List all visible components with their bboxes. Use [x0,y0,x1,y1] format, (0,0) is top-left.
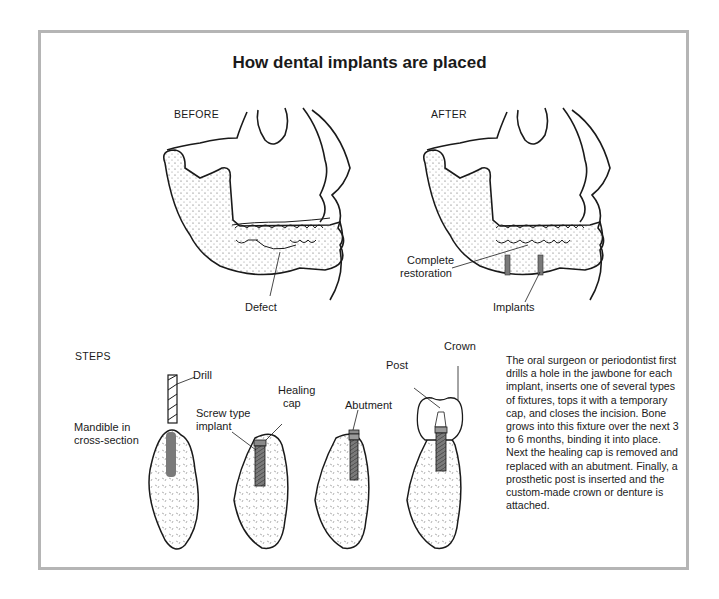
screw-implant-label-line2: implant [196,420,231,433]
skull-before [164,108,350,300]
step-screw-implant [232,424,288,548]
healing-cap-label-line1: Healing [278,384,315,397]
step-abutment [315,410,369,548]
implants-callout: Implants [493,301,535,314]
steps-heading: STEPS [75,350,111,363]
procedure-description: The oral surgeon or periodontist first d… [506,354,681,512]
crown-label: Crown [444,340,476,353]
abutment-label: Abutment [345,399,392,412]
post-label: Post [386,359,408,372]
after-label: AFTER [431,108,467,121]
defect-callout: Defect [245,301,277,314]
screw-implant-label-line1: Screw type [196,407,250,420]
before-label: BEFORE [174,108,219,121]
step-drill [149,375,198,549]
mandible-label-line1: Mandible in [74,421,130,434]
mandible-label-line2: cross-section [74,434,139,447]
complete-restoration-callout-line1: Complete [407,254,454,267]
step-crown [407,366,463,548]
healing-cap-label-line2: cap [283,397,301,410]
complete-restoration-callout-line2: restoration [400,267,452,280]
drill-label: Drill [193,369,212,382]
